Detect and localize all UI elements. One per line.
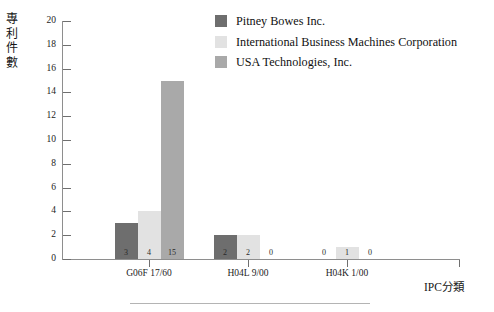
- x-axis-line: [62, 259, 460, 260]
- bar-chart: 專 利 件 數 02468101214161820 3415220010 G06…: [0, 0, 494, 312]
- y-axis-title: 專 利 件 數: [3, 12, 21, 70]
- footer-divider: [130, 303, 370, 304]
- y-axis-tick-label: 20: [30, 15, 56, 25]
- bar-value-label: 15: [161, 248, 184, 257]
- y-axis-tick-label: 8: [30, 158, 56, 168]
- x-axis-tick: [347, 260, 348, 267]
- y-axis-tick-label: 6: [30, 182, 56, 192]
- y-axis-tick-label: 2: [30, 229, 56, 239]
- bar-value-label: 2: [214, 248, 237, 257]
- y-axis-title-char: 數: [3, 56, 21, 71]
- legend-swatch-icon: [215, 36, 227, 48]
- bar-value-label: 0: [313, 248, 336, 257]
- bar-value-label: 3: [115, 248, 138, 257]
- legend-item-label: USA Technologies, Inc.: [236, 52, 352, 72]
- y-axis-title-char: 專: [3, 12, 21, 27]
- y-axis-tick-label: 12: [30, 110, 56, 120]
- x-axis-tick: [149, 260, 150, 267]
- bar: [161, 81, 184, 260]
- y-axis-tick-label: 10: [30, 134, 56, 144]
- y-axis-tick-label: 16: [30, 63, 56, 73]
- y-axis-tick-label: 0: [30, 253, 56, 263]
- x-axis-title: IPC分類: [424, 278, 464, 294]
- legend-swatch-icon: [215, 15, 227, 27]
- x-axis-tick: [248, 260, 249, 267]
- bar-value-label: 0: [359, 248, 382, 257]
- y-axis-title-char: 件: [3, 41, 21, 56]
- y-axis-tick-label: 18: [30, 39, 56, 49]
- bar-value-label: 0: [260, 248, 283, 257]
- y-axis-tick: [63, 259, 71, 260]
- y-axis-tick-label: 14: [30, 86, 56, 96]
- x-axis-category-label: H04K 1/00: [287, 268, 407, 278]
- bar-value-label: 1: [336, 248, 359, 257]
- legend-item-label: International Business Machines Corporat…: [236, 32, 457, 52]
- legend-swatch-icon: [215, 56, 227, 68]
- y-axis-tick-label: 4: [30, 205, 56, 215]
- legend-item-label: Pitney Bowes Inc.: [236, 11, 325, 31]
- y-axis-title-char: 利: [3, 27, 21, 42]
- bar-value-label: 4: [138, 248, 161, 257]
- x-axis-end-tick: [459, 260, 460, 267]
- bar-value-label: 2: [237, 248, 260, 257]
